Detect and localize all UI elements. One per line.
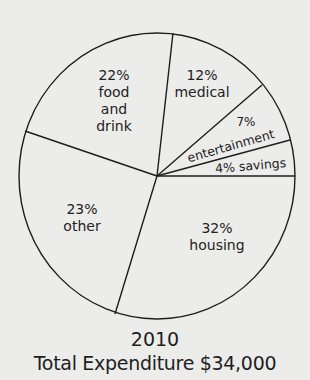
food-percent-label: 22% [98, 67, 129, 83]
other-percent-label: 23% [66, 201, 97, 217]
food-label-1: food [99, 84, 130, 100]
medical-label: medical [174, 84, 229, 100]
food-label-2: and [101, 101, 127, 117]
divider-food-medical [157, 33, 173, 176]
divider-housing-other [115, 176, 157, 314]
housing-percent-label: 32% [201, 220, 232, 236]
divider-other-food [25, 131, 157, 176]
housing-label: housing [189, 237, 244, 253]
chart-year-title: 2010 [0, 328, 310, 350]
other-label: other [63, 218, 101, 234]
food-label-3: drink [96, 118, 132, 134]
chart-total-expenditure: Total Expenditure $34,000 [0, 352, 310, 374]
entertainment-percent-label: 7% [236, 115, 255, 129]
pie-chart: 22% food and drink 12% medical 23% other… [0, 0, 310, 380]
medical-percent-label: 12% [186, 67, 217, 83]
